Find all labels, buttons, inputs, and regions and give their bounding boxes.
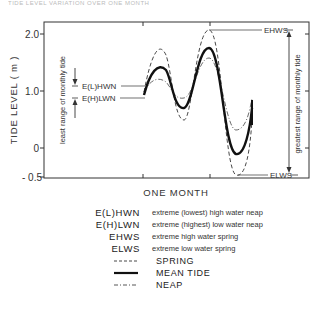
legend-desc: extreme low water spring — [152, 244, 235, 253]
y-tick-2: 2.0 — [25, 29, 39, 40]
y-tick-0: 0 — [33, 143, 39, 154]
y-axis-label: TIDE LEVEL ( m ) — [8, 56, 19, 144]
tide-chart: 2.0 1.0 0 - 0.5 TIDE LEVEL ( m ) ONE MON… — [0, 0, 316, 205]
mean-tide-curve — [144, 48, 252, 154]
legend-line-swatches — [112, 257, 152, 297]
greatest-range-label: greatest range of monthly tide — [293, 54, 302, 153]
elhwn-label: E(L)HWN — [82, 82, 116, 91]
legend-abbr: E(H)LWN — [60, 219, 140, 230]
y-tick-neg05: - 0.5 — [22, 172, 42, 183]
legend-line-name: MEAN TIDE — [156, 268, 210, 278]
legend-abbr: ELWS — [60, 243, 140, 254]
legend-abbr: EHWS — [60, 231, 140, 242]
y-tick-1: 1.0 — [25, 86, 39, 97]
legend-desc: extreme (highest) low water neap — [152, 220, 263, 229]
x-axis-label: ONE MONTH — [143, 187, 208, 198]
legend-desc: extreme high water spring — [152, 232, 238, 241]
legend-desc: extreme (lowest) high water neap — [152, 208, 263, 217]
ehlwn-label: E(H)LWN — [82, 94, 116, 103]
legend-line-name: SPRING — [156, 256, 194, 266]
least-range-label: least range of monthly tide — [58, 56, 67, 144]
ehws-label: EHWS — [264, 26, 288, 35]
legend-line-name: NEAP — [156, 280, 183, 290]
legend-abbr: E(L)HWN — [60, 207, 140, 218]
